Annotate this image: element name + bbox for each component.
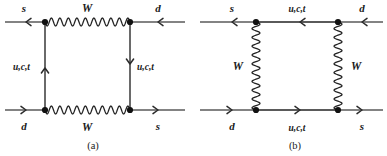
quark-flavour-label: u,c,t (137, 62, 154, 72)
w-boson-label: W (233, 60, 244, 72)
external-line-bottom-left-outgoing: d (5, 106, 45, 132)
external-line-bottom-right-outgoing: s (338, 106, 383, 132)
wavy-propagator-w-boson-right: W (334, 22, 362, 110)
particle-label-d: d (359, 2, 365, 14)
vertex-vertex-top-right (127, 19, 133, 25)
vertex-vertex-bottom-right (335, 107, 341, 113)
w-boson-wave (45, 106, 130, 114)
particle-label-s: s (229, 2, 234, 14)
external-line-bottom-right-outgoing: s (130, 106, 185, 132)
wavy-propagator-w-boson-bottom: W (45, 106, 130, 133)
external-line-top-right-incoming: d (130, 2, 185, 26)
wavy-propagator-w-boson-top: W (45, 2, 130, 26)
internal-line-quark-propagator-top: u,c,t (256, 4, 338, 26)
external-line-top-left-incoming: s (5, 2, 45, 26)
w-boson-label: W (82, 2, 93, 14)
vertex-vertex-top-left (253, 19, 259, 25)
quark-flavour-label: u,c,t (13, 62, 30, 72)
vertex-vertex-bottom-right (127, 107, 133, 113)
panel-caption-a: (a) (87, 140, 99, 152)
particle-label-s: s (21, 2, 26, 14)
quark-flavour-label: u,c,t (289, 4, 306, 14)
w-boson-wave (45, 18, 130, 26)
w-boson-label: W (351, 60, 362, 72)
internal-line-quark-propagator-right: u,c,t (126, 22, 154, 110)
vertex-vertex-top-right (335, 19, 341, 25)
panel-caption-b: (b) (289, 140, 302, 152)
panel-a: sddsu,c,tu,c,tWW(a) (5, 2, 185, 152)
vertex-vertex-top-left (42, 19, 48, 25)
diagram-canvas: sddsu,c,tu,c,tWW(a)sddsu,c,tu,c,tWW(b) (0, 0, 387, 156)
external-line-top-left-incoming: s (200, 2, 256, 26)
particle-label-s: s (155, 120, 160, 132)
external-line-bottom-left-outgoing: d (200, 106, 256, 132)
w-boson-wave (252, 22, 260, 110)
panel-b: sddsu,c,tu,c,tWW(b) (200, 2, 383, 152)
particle-label-s: s (359, 120, 364, 132)
particle-label-d: d (21, 120, 27, 132)
w-boson-label: W (82, 121, 93, 133)
internal-line-quark-propagator-bottom: u,c,t (256, 106, 338, 133)
internal-line-quark-propagator-left: u,c,t (13, 22, 49, 110)
vertex-vertex-bottom-left (42, 107, 48, 113)
quark-flavour-label: u,c,t (289, 123, 306, 133)
particle-label-d: d (229, 120, 235, 132)
wavy-propagator-w-boson-left: W (233, 22, 260, 110)
feynman-diagram-figure: sddsu,c,tu,c,tWW(a)sddsu,c,tu,c,tWW(b) (0, 0, 387, 156)
particle-label-d: d (155, 2, 161, 14)
external-line-top-right-incoming: d (338, 2, 383, 26)
w-boson-wave (334, 22, 342, 110)
vertex-vertex-bottom-left (253, 107, 259, 113)
